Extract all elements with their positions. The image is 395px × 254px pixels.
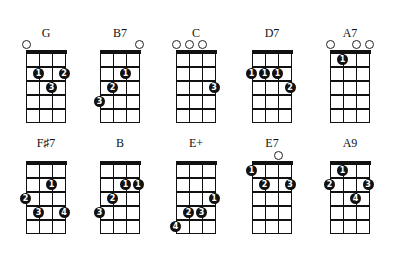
finger-dot: 3 (33, 207, 44, 218)
fret-line (177, 177, 215, 179)
fretboard-grid: 1234 (330, 164, 370, 234)
open-string-icon (198, 40, 207, 49)
finger-dot: 2 (324, 179, 335, 190)
nut (100, 161, 141, 165)
string-line (39, 53, 41, 122)
fret-line (101, 66, 139, 68)
fret-line (101, 205, 139, 207)
fret-line (101, 94, 139, 96)
nut (252, 161, 293, 165)
open-string-icon (352, 40, 361, 49)
finger-dot: 1 (337, 165, 348, 176)
finger-dot: 1 (209, 193, 220, 204)
nut (176, 50, 217, 54)
nut (26, 50, 67, 54)
chord-name: D7 (242, 26, 302, 41)
string-line (202, 164, 204, 233)
string-line (39, 164, 41, 233)
chord-name: F♯7 (16, 136, 76, 151)
finger-dot: 1 (46, 179, 57, 190)
nut (176, 161, 217, 165)
fret-line (253, 66, 291, 68)
open-string-icon (326, 40, 335, 49)
finger-dot: 1 (120, 68, 131, 79)
fret-line (253, 191, 291, 193)
fret-line (331, 205, 369, 207)
nut (330, 50, 371, 54)
string-line (126, 53, 128, 122)
finger-dot: 3 (196, 207, 207, 218)
finger-dot: 4 (170, 221, 181, 232)
finger-dot: 2 (107, 82, 118, 93)
fret-line (177, 219, 215, 221)
finger-dot: 2 (59, 68, 70, 79)
open-string-icon (185, 40, 194, 49)
fret-line (331, 219, 369, 221)
string-line (126, 164, 128, 233)
fret-line (253, 205, 291, 207)
fret-line (101, 191, 139, 193)
finger-dot: 3 (285, 179, 296, 190)
fretboard-grid: 1234 (176, 164, 216, 234)
open-string-icon (365, 40, 374, 49)
fretboard-grid: 123 (26, 53, 66, 123)
open-string-icon (274, 151, 283, 160)
string-line (202, 53, 204, 122)
fretboard-grid: 1123 (100, 164, 140, 234)
finger-dot: 1 (272, 68, 283, 79)
fret-line (253, 219, 291, 221)
chord-name: B (90, 136, 150, 151)
fret-line (177, 80, 215, 82)
fret-line (27, 108, 65, 110)
open-string-icon (172, 40, 181, 49)
fret-line (27, 219, 65, 221)
chord-name: A9 (320, 136, 380, 151)
fret-line (331, 177, 369, 179)
finger-dot: 3 (94, 207, 105, 218)
nut (252, 50, 293, 54)
fretboard-grid: 123 (252, 164, 292, 234)
string-line (189, 164, 191, 233)
fret-line (253, 94, 291, 96)
fret-line (253, 177, 291, 179)
finger-dot: 2 (20, 193, 31, 204)
finger-dot: 2 (183, 207, 194, 218)
fret-line (253, 80, 291, 82)
fret-line (177, 66, 215, 68)
finger-dot: 2 (285, 82, 296, 93)
string-line (278, 164, 280, 233)
string-line (52, 164, 54, 233)
fret-line (27, 94, 65, 96)
finger-dot: 1 (120, 179, 131, 190)
chord-name: G (16, 26, 76, 41)
string-line (189, 53, 191, 122)
finger-dot: 1 (133, 179, 144, 190)
string-line (278, 53, 280, 122)
chord-name: E+ (166, 136, 226, 151)
fret-line (27, 66, 65, 68)
finger-dot: 4 (350, 193, 361, 204)
fret-line (177, 205, 215, 207)
fret-line (101, 177, 139, 179)
nut (26, 161, 67, 165)
fret-line (27, 80, 65, 82)
fret-line (331, 66, 369, 68)
open-string-icon (22, 40, 31, 49)
finger-dot: 1 (246, 165, 257, 176)
fretboard-grid: 1 (330, 53, 370, 123)
fret-line (177, 191, 215, 193)
fret-line (27, 205, 65, 207)
fret-line (331, 108, 369, 110)
chord-name: C (166, 26, 226, 41)
fretboard-grid: 1234 (26, 164, 66, 234)
finger-dot: 1 (33, 68, 44, 79)
fret-line (101, 219, 139, 221)
fretboard-grid: 1112 (252, 53, 292, 123)
fret-line (177, 94, 215, 96)
fret-line (27, 191, 65, 193)
fret-line (331, 80, 369, 82)
open-string-icon (135, 40, 144, 49)
fret-line (331, 94, 369, 96)
finger-dot: 4 (59, 207, 70, 218)
finger-dot: 3 (94, 96, 105, 107)
